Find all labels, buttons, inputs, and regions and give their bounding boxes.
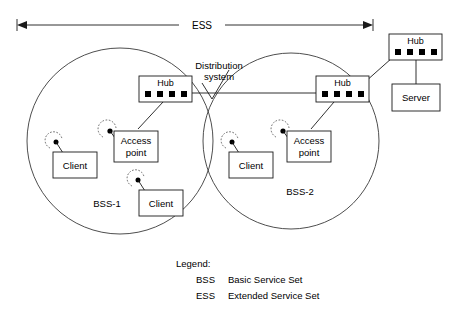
access-point-right-label-line2: point bbox=[299, 147, 320, 158]
bss-1-label: BSS-1 bbox=[93, 198, 120, 209]
access-point-right[interactable]: Access point bbox=[271, 120, 331, 162]
hub-top-label: Hub bbox=[407, 36, 424, 46]
antenna-icon-client-right-1 bbox=[221, 132, 239, 153]
antenna-icon-client-left-1 bbox=[45, 132, 63, 153]
link-hub-left-to-access-point-left bbox=[138, 102, 163, 129]
legend-entry-0-abbr: BSS bbox=[196, 274, 215, 285]
client-right-1[interactable]: Client bbox=[221, 132, 273, 178]
client-left-1[interactable]: Client bbox=[45, 132, 97, 178]
ess-arrow-right-head bbox=[363, 21, 373, 29]
distribution-system-label-line1: Distribution bbox=[195, 60, 243, 71]
legend-entry-1-abbr: ESS bbox=[196, 290, 215, 301]
access-point-left[interactable]: Access point bbox=[98, 120, 158, 162]
client-left-2-label: Client bbox=[149, 198, 174, 209]
client-left-1-label: Client bbox=[63, 160, 88, 171]
client-right-1-label: Client bbox=[239, 160, 264, 171]
access-point-left-label-line1: Access bbox=[121, 135, 152, 146]
hub-left-label: Hub bbox=[157, 78, 174, 88]
legend-entry-1-text: Extended Service Set bbox=[228, 290, 320, 301]
hub-left[interactable]: Hub bbox=[139, 76, 192, 102]
bss-2-label: BSS-2 bbox=[286, 186, 313, 197]
antenna-icon-client-left-2 bbox=[127, 170, 145, 191]
hub-top[interactable]: Hub bbox=[389, 34, 442, 60]
link-hub-right-to-access-point-right bbox=[311, 102, 334, 129]
ess-span-label: ESS bbox=[192, 20, 212, 31]
legend-heading: Legend: bbox=[176, 258, 210, 269]
server-node[interactable]: Server bbox=[392, 84, 440, 111]
hub-right-label: Hub bbox=[334, 78, 351, 88]
legend-entry-0-text: Basic Service Set bbox=[228, 274, 303, 285]
hub-right[interactable]: Hub bbox=[316, 76, 369, 102]
distribution-system-label-line2: system bbox=[204, 71, 234, 82]
access-point-left-label-line2: point bbox=[126, 147, 147, 158]
ess-arrow-left-head bbox=[17, 21, 27, 29]
client-left-2[interactable]: Client bbox=[127, 170, 183, 216]
wireless-lan-diagram: ESS Distribution system Hub bbox=[0, 0, 456, 316]
access-point-right-label-line1: Access bbox=[294, 135, 325, 146]
server-label: Server bbox=[402, 92, 430, 103]
